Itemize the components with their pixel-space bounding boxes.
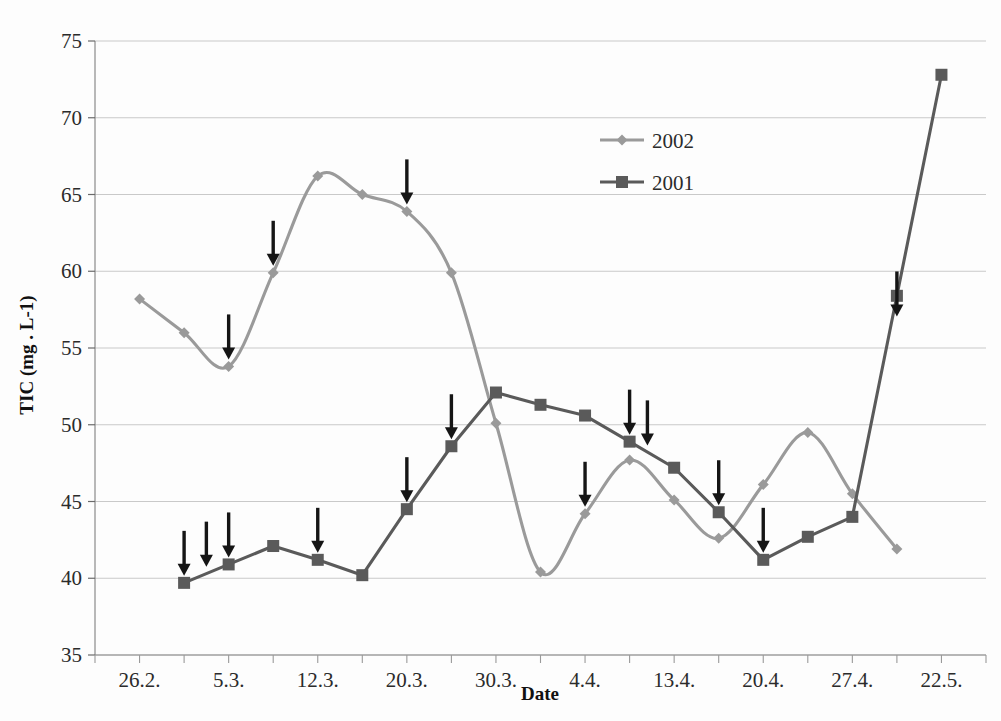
arrow-head xyxy=(200,555,213,567)
data-point xyxy=(268,267,279,278)
series-line xyxy=(140,172,897,574)
arrow-head xyxy=(712,493,725,505)
y-axis-title: TIC (mg . L-1) xyxy=(16,295,38,414)
y-axis-ticks: 354045505560657075 xyxy=(61,29,95,667)
data-point xyxy=(535,399,547,411)
down-arrow-icon xyxy=(757,508,770,553)
data-point xyxy=(312,554,324,566)
arrow-head xyxy=(222,545,235,557)
x-tick-label: 4.4. xyxy=(569,668,601,692)
down-arrow-icon xyxy=(623,390,636,435)
x-axis-title: Date xyxy=(521,683,559,704)
y-tick-label: 50 xyxy=(61,413,82,437)
legend-label: 2001 xyxy=(652,171,694,195)
tic-date-line-chart: 354045505560657075 26.2.5.3.12.3.20.3.30… xyxy=(0,0,1001,721)
x-tick-label: 26.2. xyxy=(119,668,161,692)
x-tick-label: 27.4. xyxy=(831,668,873,692)
down-arrow-icon xyxy=(222,314,235,359)
arrow-head xyxy=(222,347,235,359)
arrow-head xyxy=(311,541,324,553)
series-2002 xyxy=(134,171,902,578)
down-arrow-icon xyxy=(445,394,458,439)
legend: 20022001 xyxy=(600,129,694,195)
down-arrow-icon xyxy=(712,460,725,505)
down-arrow-icon xyxy=(178,531,191,576)
data-point xyxy=(802,427,813,438)
data-point xyxy=(757,554,769,566)
down-arrow-icon xyxy=(311,508,324,553)
data-point xyxy=(401,503,413,515)
x-tick-label: 22.5. xyxy=(920,668,962,692)
x-tick-label: 20.4. xyxy=(742,668,784,692)
data-point xyxy=(267,540,279,552)
down-arrow-icon xyxy=(200,522,213,567)
data-point xyxy=(446,267,457,278)
data-point xyxy=(935,69,947,81)
x-tick-label: 20.3. xyxy=(386,668,428,692)
legend-item-2002[interactable]: 2002 xyxy=(600,129,694,153)
y-tick-label: 65 xyxy=(61,183,82,207)
chart-canvas: 354045505560657075 26.2.5.3.12.3.20.3.30… xyxy=(0,0,1001,721)
arrow-head xyxy=(445,427,458,439)
arrow-head xyxy=(400,192,413,204)
data-point xyxy=(802,531,814,543)
data-point xyxy=(178,577,190,589)
data-point xyxy=(445,440,457,452)
data-point xyxy=(579,410,591,422)
down-arrow-icon xyxy=(641,400,654,445)
down-arrow-icon xyxy=(400,159,413,204)
x-tick-label: 13.4. xyxy=(653,668,695,692)
data-point xyxy=(668,462,680,474)
y-tick-label: 35 xyxy=(61,643,82,667)
data-point xyxy=(624,436,636,448)
y-tick-label: 45 xyxy=(61,490,82,514)
data-point xyxy=(490,387,502,399)
data-point xyxy=(713,506,725,518)
data-point xyxy=(846,511,858,523)
annotation-arrows xyxy=(178,159,904,575)
x-tick-label: 5.3. xyxy=(213,668,245,692)
data-point xyxy=(223,558,235,570)
y-tick-label: 60 xyxy=(61,259,82,283)
data-point xyxy=(713,533,724,544)
legend-item-2001[interactable]: 2001 xyxy=(600,171,694,195)
y-tick-label: 55 xyxy=(61,336,82,360)
down-arrow-icon xyxy=(222,512,235,557)
down-arrow-icon xyxy=(579,462,592,507)
arrow-head xyxy=(757,541,770,553)
arrow-head xyxy=(178,564,191,576)
data-series xyxy=(134,69,947,589)
data-point xyxy=(357,189,368,200)
legend-swatch-marker xyxy=(617,135,628,146)
data-point xyxy=(356,569,368,581)
x-tick-label: 12.3. xyxy=(297,668,339,692)
arrow-head xyxy=(641,433,654,445)
down-arrow-icon xyxy=(400,457,413,502)
legend-swatch-marker xyxy=(616,176,628,188)
y-tick-label: 75 xyxy=(61,29,82,53)
series-line xyxy=(184,75,941,583)
data-point xyxy=(624,455,635,466)
x-tick-label: 30.3. xyxy=(475,668,517,692)
series-2001 xyxy=(178,69,947,589)
arrow-head xyxy=(623,423,636,435)
y-tick-label: 70 xyxy=(61,106,82,130)
y-tick-label: 40 xyxy=(61,566,82,590)
data-point xyxy=(490,418,501,429)
legend-label: 2002 xyxy=(652,129,694,153)
